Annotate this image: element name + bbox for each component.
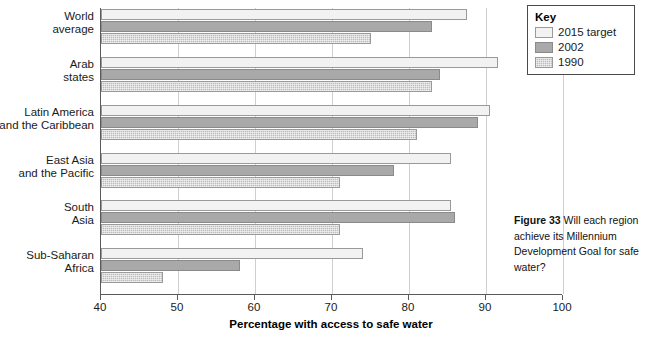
- category-label-line: Africa: [0, 262, 94, 275]
- x-tick-label-80: 80: [388, 301, 428, 313]
- bar[interactable]: [101, 57, 498, 68]
- bar[interactable]: [101, 69, 440, 80]
- legend-swatch-1990: [535, 57, 553, 68]
- bar[interactable]: [101, 260, 240, 271]
- bar-group: [101, 152, 562, 200]
- category-label-line: Asia: [0, 214, 94, 227]
- bar-group: [101, 104, 562, 152]
- bar[interactable]: [101, 21, 432, 32]
- figure-number: Figure 33: [514, 214, 561, 226]
- bar[interactable]: [101, 33, 371, 44]
- x-tick-40: [100, 295, 101, 300]
- bar[interactable]: [101, 117, 478, 128]
- x-tick-label-70: 70: [311, 301, 351, 313]
- legend-swatch-2015-target: [535, 27, 553, 38]
- category-label-line: average: [0, 23, 94, 36]
- bar[interactable]: [101, 153, 451, 164]
- category-label: Sub-SaharanAfrica: [0, 249, 94, 275]
- category-label: Arabstates: [0, 58, 94, 84]
- category-label: Worldaverage: [0, 10, 94, 36]
- figure-container: Percentage with access to safe water Key…: [0, 0, 672, 337]
- bar[interactable]: [101, 224, 340, 235]
- category-label-line: and the Pacific: [0, 167, 94, 180]
- bar-group: [101, 8, 562, 56]
- category-label-line: Arab: [0, 58, 94, 71]
- bar-group: [101, 56, 562, 104]
- bar[interactable]: [101, 200, 451, 211]
- bar[interactable]: [101, 105, 490, 116]
- bar[interactable]: [101, 272, 163, 283]
- bar-group: [101, 247, 562, 295]
- figure-caption: Figure 33 Will each region achieve its M…: [514, 213, 666, 275]
- x-tick-70: [331, 295, 332, 300]
- x-axis-title: Percentage with access to safe water: [100, 318, 562, 330]
- legend-item-2015-target[interactable]: 2015 target: [535, 26, 628, 38]
- category-label: Latin Americaand the Caribbean: [0, 106, 94, 132]
- x-tick-60: [254, 295, 255, 300]
- category-label-line: states: [0, 71, 94, 84]
- bar[interactable]: [101, 177, 340, 188]
- legend-label-1990: 1990: [558, 56, 584, 68]
- legend-label-2015-target: 2015 target: [558, 26, 616, 38]
- bar-group: [101, 199, 562, 247]
- chart-legend: Key 2015 target 2002 1990: [527, 5, 635, 75]
- legend-title: Key: [535, 11, 628, 23]
- plot-area: [100, 8, 562, 295]
- category-label: SouthAsia: [0, 201, 94, 227]
- x-tick-label-100: 100: [542, 301, 582, 313]
- x-tick-label-40: 40: [80, 301, 120, 313]
- x-tick-label-50: 50: [157, 301, 197, 313]
- category-label-line: Latin America: [0, 106, 94, 119]
- bar[interactable]: [101, 81, 432, 92]
- x-tick-80: [408, 295, 409, 300]
- x-tick-50: [177, 295, 178, 300]
- category-label-line: East Asia: [0, 154, 94, 167]
- x-tick-label-90: 90: [465, 301, 505, 313]
- category-label: East Asiaand the Pacific: [0, 154, 94, 180]
- bar[interactable]: [101, 9, 467, 20]
- bar[interactable]: [101, 212, 455, 223]
- bar[interactable]: [101, 248, 363, 259]
- legend-item-1990[interactable]: 1990: [535, 56, 628, 68]
- legend-label-2002: 2002: [558, 41, 584, 53]
- category-label-line: South: [0, 201, 94, 214]
- category-label-line: Sub-Saharan: [0, 249, 94, 262]
- x-tick-90: [485, 295, 486, 300]
- bar[interactable]: [101, 129, 417, 140]
- legend-item-2002[interactable]: 2002: [535, 41, 628, 53]
- bar[interactable]: [101, 165, 394, 176]
- x-tick-100: [562, 295, 563, 300]
- category-label-line: World: [0, 10, 94, 23]
- x-tick-label-60: 60: [234, 301, 274, 313]
- legend-swatch-2002: [535, 42, 553, 53]
- category-label-line: and the Caribbean: [0, 119, 94, 132]
